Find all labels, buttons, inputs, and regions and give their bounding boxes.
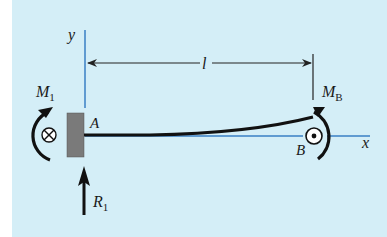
x-axis-label: x	[361, 134, 369, 151]
length-label: l	[202, 55, 207, 72]
reaction-r1-label: R1	[92, 193, 108, 213]
out-of-page-icon	[306, 128, 322, 144]
moment-m1-label: M1	[35, 83, 55, 103]
moment-mb-label: MB	[321, 83, 343, 103]
fixed-support-wall	[67, 113, 84, 157]
beam-diagram: y x l A B M1 MB R1	[0, 0, 387, 237]
point-a-label: A	[89, 115, 100, 131]
y-axis-label: y	[66, 26, 76, 44]
beam	[84, 117, 313, 135]
point-b-label: B	[296, 142, 305, 158]
into-page-icon	[42, 128, 56, 142]
